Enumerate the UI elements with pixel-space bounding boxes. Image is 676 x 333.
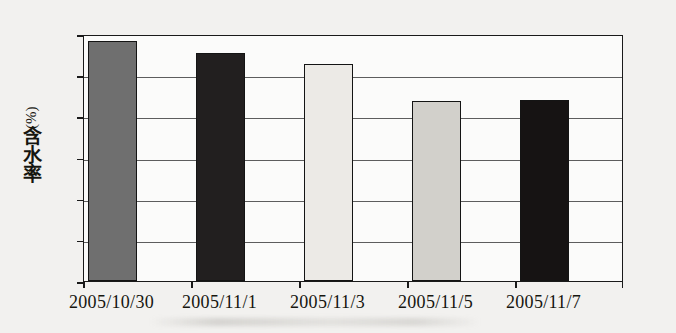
- x-tick-mark: [191, 282, 193, 288]
- bar: [520, 100, 569, 281]
- x-tick-label: 2005/10/30: [69, 292, 154, 313]
- x-tick-label: 2005/11/7: [506, 292, 581, 313]
- x-tick-mark: [299, 282, 301, 288]
- x-tick-label: 2005/11/3: [290, 292, 365, 313]
- bar: [412, 101, 461, 281]
- x-axis: 2005/10/302005/11/12005/11/32005/11/5200…: [83, 282, 623, 327]
- bar-chart: (%) 含水率 051015202530 2005/10/302005/11/1…: [0, 0, 676, 333]
- bar: [196, 53, 245, 281]
- x-tick-label: 2005/11/1: [182, 292, 257, 313]
- y-axis-title: (%) 含水率: [14, 112, 50, 184]
- y-axis-unit: (%): [24, 100, 39, 136]
- bar: [304, 64, 353, 281]
- x-tick-mark: [407, 282, 409, 288]
- bar: [88, 41, 137, 281]
- gridline: [84, 77, 622, 78]
- x-tick-label: 2005/11/5: [398, 292, 473, 313]
- x-tick-mark: [83, 282, 85, 288]
- y-axis-label-text: 含水率: [14, 127, 50, 184]
- x-tick-mark: [515, 282, 517, 288]
- x-tick-mark: [622, 282, 624, 288]
- plot-area: [83, 35, 623, 282]
